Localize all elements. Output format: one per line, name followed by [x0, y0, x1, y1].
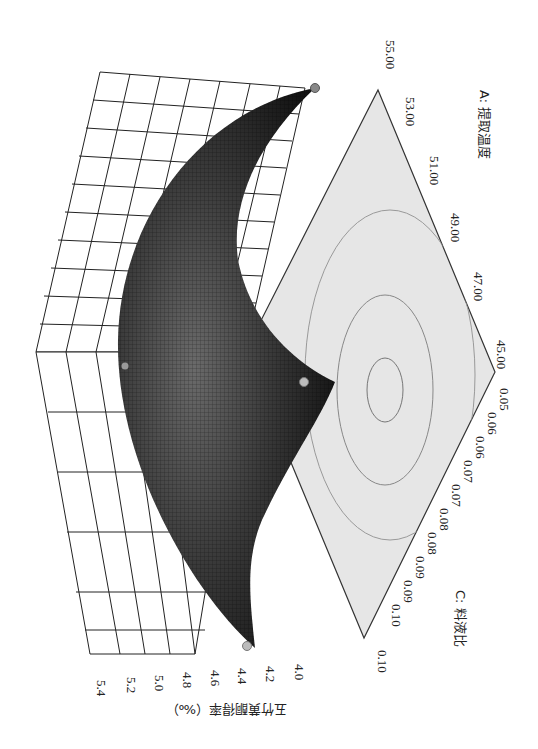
svg-text:4.2: 4.2 — [263, 666, 278, 682]
z-axis-label: 五竹黄酮得率（‰） — [166, 702, 287, 717]
x-axis-label: A: 提取温度 — [477, 90, 492, 159]
svg-text:51.00: 51.00 — [427, 156, 442, 185]
svg-text:4.0: 4.0 — [292, 664, 307, 680]
svg-text:4.4: 4.4 — [235, 668, 250, 685]
svg-text:5.2: 5.2 — [124, 677, 139, 693]
y-axis-label: C: 料液比 — [453, 590, 468, 647]
svg-text:55.00: 55.00 — [383, 40, 398, 69]
response-surface-chart: 5.4 5.2 5.0 4.8 4.6 4.4 4.2 4.0 五竹黄酮得率（‰… — [0, 0, 538, 749]
svg-text:45.00: 45.00 — [494, 340, 509, 369]
svg-text:4.8: 4.8 — [180, 672, 195, 688]
svg-text:0.08: 0.08 — [425, 532, 440, 555]
svg-text:0.07: 0.07 — [461, 460, 476, 483]
svg-text:0.06: 0.06 — [485, 412, 500, 435]
svg-text:53.00: 53.00 — [403, 97, 418, 126]
svg-text:4.6: 4.6 — [208, 670, 223, 687]
svg-text:0.10: 0.10 — [389, 604, 404, 627]
svg-text:0.07: 0.07 — [449, 484, 464, 507]
svg-text:0.05: 0.05 — [497, 388, 512, 411]
svg-text:47.00: 47.00 — [471, 272, 486, 301]
svg-text:0.08: 0.08 — [437, 508, 452, 531]
svg-text:0.09: 0.09 — [413, 556, 428, 579]
z-axis-ticks: 5.4 5.2 5.0 4.8 4.6 4.4 4.2 4.0 — [94, 664, 307, 697]
svg-text:49.00: 49.00 — [448, 213, 463, 242]
svg-text:0.10: 0.10 — [375, 650, 390, 673]
svg-text:5.0: 5.0 — [152, 675, 167, 691]
svg-text:5.4: 5.4 — [94, 680, 109, 697]
svg-text:0.06: 0.06 — [473, 436, 488, 459]
svg-text:0.09: 0.09 — [401, 580, 416, 603]
